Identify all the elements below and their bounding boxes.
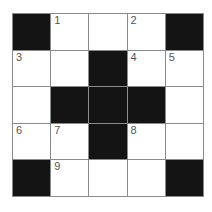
crossword-cell[interactable] [166, 124, 203, 160]
black-square [89, 87, 126, 123]
black-square [13, 14, 50, 50]
crossword-cell[interactable] [128, 160, 165, 196]
clue-number: 2 [131, 15, 137, 26]
crossword-cell[interactable]: 9 [51, 160, 88, 196]
clue-number: 9 [54, 161, 60, 172]
crossword-cell[interactable]: 2 [128, 14, 165, 50]
crossword-cell[interactable] [51, 51, 88, 87]
crossword-cell[interactable]: 6 [13, 124, 50, 160]
clue-number: 3 [16, 52, 22, 63]
black-square [51, 87, 88, 123]
black-square [128, 87, 165, 123]
black-square [89, 124, 126, 160]
black-square [166, 14, 203, 50]
clue-number: 5 [169, 52, 175, 63]
clue-number: 1 [54, 15, 60, 26]
crossword-cell[interactable] [89, 14, 126, 50]
clue-number: 6 [16, 125, 22, 136]
crossword-cell[interactable] [89, 160, 126, 196]
crossword-cell[interactable]: 8 [128, 124, 165, 160]
black-square [89, 51, 126, 87]
crossword-grid: 1 2 3 4 5 6 7 8 9 [12, 13, 204, 197]
crossword-cell[interactable] [166, 87, 203, 123]
crossword-cell[interactable]: 3 [13, 51, 50, 87]
clue-number: 8 [131, 125, 137, 136]
black-square [13, 160, 50, 196]
crossword-cell[interactable]: 5 [166, 51, 203, 87]
clue-number: 4 [131, 52, 137, 63]
black-square [166, 160, 203, 196]
crossword-cell[interactable] [13, 87, 50, 123]
crossword-cell[interactable]: 7 [51, 124, 88, 160]
crossword-cell[interactable]: 1 [51, 14, 88, 50]
crossword-cell[interactable]: 4 [128, 51, 165, 87]
clue-number: 7 [54, 125, 60, 136]
